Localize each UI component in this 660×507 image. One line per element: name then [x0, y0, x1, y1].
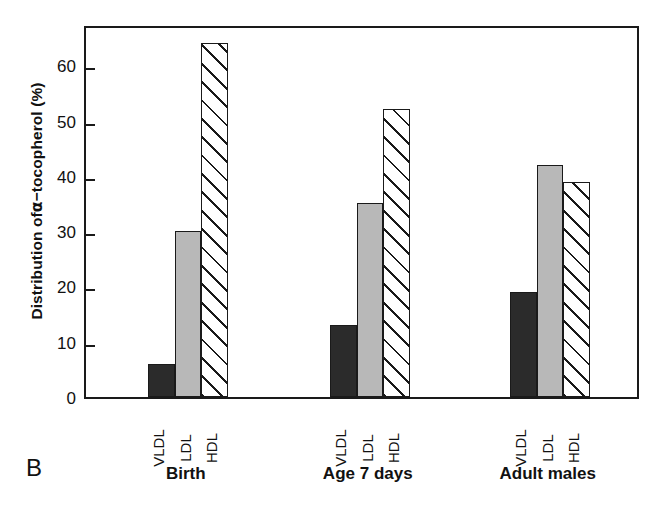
y-axis-tick [86, 179, 95, 181]
bar-adult-males-vldl [510, 292, 537, 397]
y-axis-tick-label: 60 [16, 58, 76, 75]
bar-age-7-days-hdl [383, 109, 410, 397]
bar-birth-hdl [201, 43, 228, 397]
y-axis-title-alpha: α [28, 201, 46, 212]
bar-birth-vldl [148, 364, 175, 397]
group-label-adult-males: Adult males [463, 463, 633, 485]
panel-letter: B [26, 456, 42, 480]
bar-adult-males-hdl [563, 182, 590, 397]
bar-age-7-days-ldl [357, 203, 384, 397]
y-axis-tick [86, 345, 95, 347]
y-axis-tick [86, 289, 95, 291]
y-axis-tick-label: 40 [16, 169, 76, 186]
y-axis-tick-label: 30 [16, 224, 76, 241]
figure-panel-b: Distribution of α−tocopherol (%) B 01020… [0, 0, 660, 507]
bar-adult-males-ldl [537, 165, 564, 397]
bar-birth-ldl [175, 231, 202, 397]
y-axis-tick [86, 68, 95, 70]
y-axis-tick [86, 234, 95, 236]
y-axis-tick-label: 0 [16, 390, 76, 407]
plot-inner [86, 28, 637, 397]
y-axis-tick [86, 124, 95, 126]
y-axis-tick-label: 20 [16, 279, 76, 296]
plot-area [84, 26, 639, 399]
bar-age-7-days-vldl [330, 325, 357, 397]
group-label-age-7-days: Age 7 days [283, 463, 453, 485]
group-label-birth: Birth [101, 463, 271, 485]
y-axis-tick-label: 10 [16, 335, 76, 352]
y-axis-tick-label: 50 [16, 114, 76, 131]
